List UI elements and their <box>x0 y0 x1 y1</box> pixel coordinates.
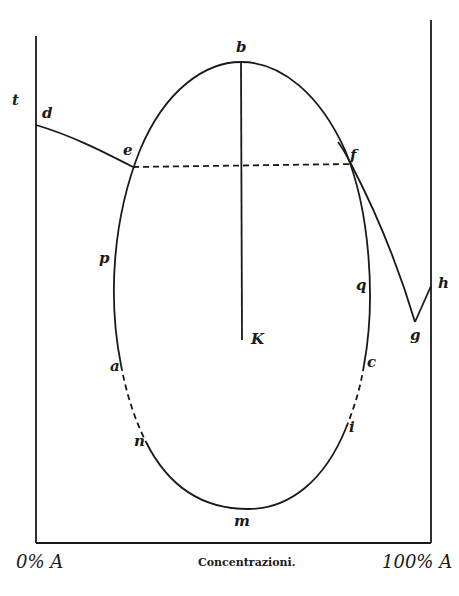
ellipse-dashed-left <box>121 365 146 442</box>
label-n: n <box>134 432 145 450</box>
label-i: i <box>349 418 355 436</box>
label-p: p <box>99 249 110 267</box>
label-d: d <box>42 104 53 122</box>
label-q: q <box>356 276 367 294</box>
label-k: K <box>250 330 265 348</box>
y-axis-label: t <box>12 91 19 109</box>
label-g: g <box>410 326 421 344</box>
phase-diagram: t b d e f g h p q K a c n i m 0% A Conce… <box>0 0 459 596</box>
label-b: b <box>236 38 247 56</box>
line-g-h <box>415 286 431 322</box>
x-axis-right-label: 100% A <box>382 551 452 572</box>
label-m: m <box>234 512 250 530</box>
line-f-g <box>338 142 415 322</box>
label-c: c <box>367 353 376 371</box>
label-a: a <box>110 357 120 375</box>
label-f: f <box>349 146 359 164</box>
line-d-e <box>36 125 133 167</box>
ellipse-lower-arc <box>146 428 346 509</box>
line-b-k <box>241 62 242 340</box>
x-axis-left-label: 0% A <box>16 551 63 572</box>
label-h: h <box>438 274 449 292</box>
x-axis-caption: Concentrazioni. <box>198 556 296 569</box>
label-e: e <box>123 141 133 159</box>
